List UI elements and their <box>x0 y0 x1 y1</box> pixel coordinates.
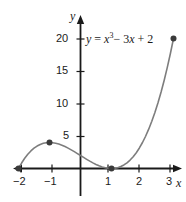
y-tick-label-20: 20 <box>56 33 68 44</box>
plot-canvas <box>0 0 186 202</box>
y-tick-label-10: 10 <box>56 98 68 109</box>
equation-constant-term: + 2 <box>138 32 154 46</box>
equation-equals: = <box>94 32 101 46</box>
equation-term2-variable: x <box>129 32 134 46</box>
x-tick-label-minus2: −2 <box>13 176 26 187</box>
marked-points-group <box>16 36 177 172</box>
y-tick-label-5: 5 <box>63 130 69 141</box>
equation-term2-coefficient: − 3 <box>113 32 129 46</box>
x-tick-label-minus1: −1 <box>44 176 57 187</box>
data-point-x-intercept-repeated <box>109 166 115 172</box>
data-point-endpoint <box>171 36 177 42</box>
x-tick-label-2: 2 <box>136 176 142 187</box>
y-axis-label: y <box>70 10 75 22</box>
y-tick-label-15: 15 <box>56 65 68 76</box>
data-point-x-intercept <box>16 166 22 172</box>
y-axis-arrowhead <box>77 15 84 24</box>
x-tick-label-1: 1 <box>105 176 111 187</box>
cubic-curve <box>19 39 174 169</box>
equation-annotation: y = x3− 3x + 2 <box>86 33 153 45</box>
equation-lhs: y <box>86 32 91 46</box>
x-axis-right-arrowhead <box>173 165 182 172</box>
data-point-local-maximum <box>47 140 53 146</box>
x-axis-label: x <box>176 177 181 189</box>
x-tick-label-3: 3 <box>166 176 172 187</box>
function-graph-figure: 20 15 10 5 −2 −1 1 2 3 y x y = x3− 3x + … <box>0 0 186 202</box>
